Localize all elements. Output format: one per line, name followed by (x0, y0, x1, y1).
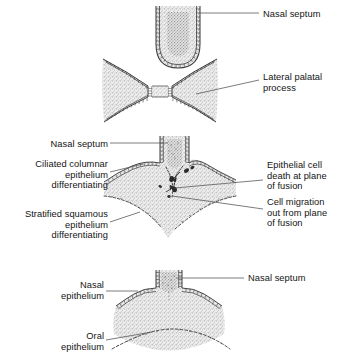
panel-1-illustration (102, 6, 259, 122)
label-ciliated-columnar-epithelium: Ciliated columnar epithelium differentia… (6, 159, 108, 191)
midline-epithelial-seam-1 (148, 86, 172, 97)
label-oral-epithelium: Oral epithelium (32, 331, 104, 352)
label-lateral-palatal-process: Lateral palatal process (263, 72, 322, 93)
label-nasal-septum-1: Nasal septum (263, 9, 320, 20)
label-cell-migration: Cell migration out from plane of fusion (267, 197, 327, 229)
panel-3-illustration (106, 270, 244, 351)
label-nasal-septum-3: Nasal septum (248, 273, 305, 284)
leader-stratified-squamous (110, 212, 140, 222)
label-nasal-septum-2: Nasal septum (18, 139, 108, 150)
panel-2-illustration (104, 136, 263, 238)
label-epithelial-cell-death: Epithelial cell death at plane of fusion (267, 160, 327, 192)
label-stratified-squamous-epithelium: Stratified squamous epithelium different… (2, 209, 108, 241)
palatal-fusion-figure: Nasal septum Lateral palatal process Nas… (0, 0, 339, 363)
fused-palate-shape (112, 270, 230, 351)
lateral-palatal-process-left (102, 59, 148, 122)
label-nasal-epithelium: Nasal epithelium (32, 280, 104, 301)
nasal-septum-shape-1 (156, 6, 200, 68)
fusing-palate-shape (104, 136, 236, 238)
